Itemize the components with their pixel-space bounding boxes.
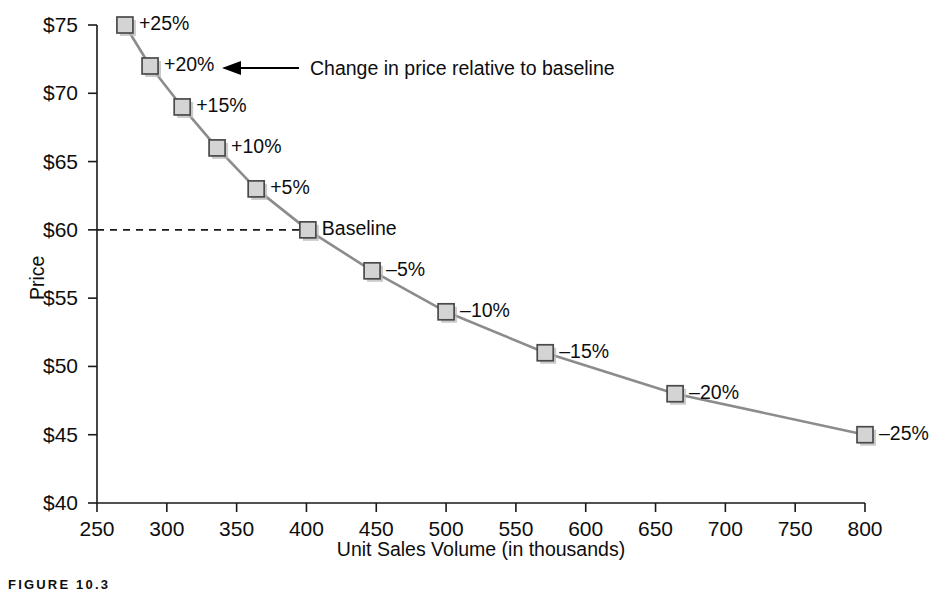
y-axis-ticks [88, 25, 97, 503]
data-point-marker [300, 222, 316, 238]
data-point-marker [364, 263, 380, 279]
price-volume-line [125, 25, 865, 435]
x-tick-label: 800 [830, 517, 900, 541]
x-tick-label: 250 [62, 517, 132, 541]
annotation-arrow-icon [222, 61, 299, 75]
figure-caption: FIGURE 10.3 [8, 577, 110, 592]
annotation-label: Change in price relative to baseline [310, 57, 615, 80]
data-point-label: –25% [879, 421, 929, 444]
data-point-label: –10% [460, 298, 510, 321]
data-point-marker [537, 345, 553, 361]
data-point-marker [667, 386, 683, 402]
x-tick-label: 350 [202, 517, 272, 541]
data-point-label: Baseline [322, 216, 397, 239]
data-point-marker [117, 17, 133, 33]
data-point-label: –20% [689, 380, 739, 403]
data-point-marker [438, 304, 454, 320]
x-tick-label: 700 [690, 517, 760, 541]
x-tick-label: 750 [760, 517, 830, 541]
y-tick-label: $40 [2, 491, 78, 515]
data-point-label: –15% [559, 339, 609, 362]
data-point-marker [857, 427, 873, 443]
x-tick-label: 300 [132, 517, 202, 541]
data-point-label: +5% [270, 175, 310, 198]
x-axis-title: Unit Sales Volume (in thousands) [281, 538, 681, 561]
data-point-marker [142, 58, 158, 74]
data-point-label: +25% [139, 12, 189, 35]
x-axis-ticks [97, 503, 865, 512]
data-point-markers [117, 17, 876, 446]
data-point-marker [174, 99, 190, 115]
y-tick-label: $65 [2, 150, 78, 174]
data-point-label: –5% [386, 257, 425, 280]
y-tick-label: $50 [2, 354, 78, 378]
data-point-label: +15% [196, 93, 246, 116]
data-point-label: +20% [164, 52, 214, 75]
y-tick-label: $75 [2, 13, 78, 37]
y-tick-label: $70 [2, 81, 78, 105]
y-tick-label: $60 [2, 218, 78, 242]
y-axis-title: Price [26, 256, 49, 300]
data-point-label: +10% [231, 134, 281, 157]
data-point-marker [248, 181, 264, 197]
data-point-marker [209, 140, 225, 156]
y-tick-label: $45 [2, 423, 78, 447]
